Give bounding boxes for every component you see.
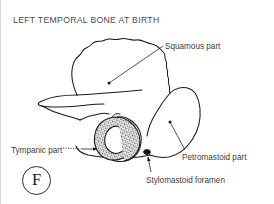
petromastoid-part-outline <box>147 88 200 158</box>
petromastoid-leader-line <box>169 121 186 151</box>
figure-left-temporal-bone-at-birth: LEFT TEMPORAL BONE AT BIRTH <box>0 0 274 204</box>
zygomatic-process <box>38 95 109 120</box>
tympanic-ring <box>94 117 141 162</box>
label-stylomastoid-foramen: Stylomastoid foramen <box>146 175 225 185</box>
squamous-leader-line <box>108 46 164 85</box>
label-squamous-part: Squamous part <box>165 41 220 51</box>
panel-letter-badge: F <box>22 166 51 195</box>
tympanic-leader-line <box>63 148 97 149</box>
label-petromastoid-part: Petromastoid part <box>182 152 246 162</box>
stylomastoid-leader-line <box>148 157 151 172</box>
stylomastoid-foramen <box>144 150 151 155</box>
squamous-lower-ridge <box>77 90 142 95</box>
squamous-part-outline <box>72 38 170 95</box>
label-tympanic-part: Tympanic part <box>11 145 62 155</box>
